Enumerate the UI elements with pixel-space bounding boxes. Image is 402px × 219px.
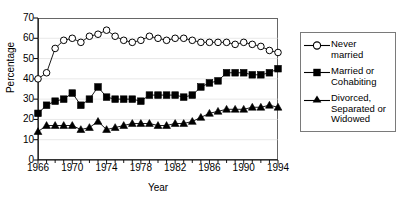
data-point	[155, 92, 162, 99]
data-point	[180, 35, 187, 42]
data-point	[223, 39, 230, 46]
data-point	[34, 128, 42, 135]
data-point	[189, 92, 196, 99]
data-point	[95, 84, 102, 91]
legend-item-married-or-cohabiting: Married or Cohabiting	[304, 66, 391, 87]
chart-area: Percentage 010203040506070 1966197019741…	[0, 0, 290, 219]
filled-square-marker-icon	[304, 67, 330, 78]
legend-label-line: Never married	[331, 38, 363, 60]
data-point	[172, 35, 179, 42]
data-point	[188, 118, 196, 125]
data-point	[120, 96, 127, 103]
data-point	[103, 27, 110, 34]
data-point	[60, 37, 67, 44]
data-point	[198, 84, 205, 91]
data-point	[52, 45, 59, 52]
data-point	[215, 78, 222, 85]
data-point	[120, 37, 127, 44]
y-tick-label: 20	[23, 114, 34, 124]
x-tick-label: 1990	[233, 162, 255, 173]
y-axis-tick-labels: 010203040506070	[0, 18, 34, 160]
data-point	[275, 65, 282, 72]
data-point	[138, 98, 145, 105]
data-point	[52, 98, 59, 105]
legend-label: Divorced, Separated or Widowed	[330, 93, 386, 125]
y-tick-label: 50	[23, 54, 34, 64]
data-point	[35, 110, 42, 117]
legend-label-line: Cohabiting	[331, 76, 376, 87]
data-point	[258, 43, 265, 50]
data-point	[215, 39, 222, 46]
data-point	[155, 35, 162, 42]
x-tick-label: 1978	[130, 162, 152, 173]
data-point	[112, 96, 119, 103]
data-point	[206, 39, 213, 46]
data-point	[240, 69, 247, 76]
data-point	[86, 33, 93, 40]
x-tick-label: 1994	[267, 162, 289, 173]
data-point	[266, 101, 274, 108]
data-point	[129, 39, 136, 46]
data-point	[146, 33, 153, 40]
y-tick-label: 30	[23, 94, 34, 104]
data-point	[189, 37, 196, 44]
data-point	[163, 92, 170, 99]
data-point	[163, 37, 170, 44]
data-point	[86, 124, 94, 131]
y-tick-label: 10	[23, 135, 34, 145]
data-point	[197, 114, 205, 121]
data-point	[240, 39, 247, 46]
data-point	[94, 118, 102, 125]
data-point	[68, 122, 76, 129]
data-point	[248, 103, 256, 110]
data-point	[112, 33, 119, 40]
data-point	[60, 122, 68, 129]
data-point	[249, 41, 256, 48]
data-point	[266, 47, 273, 54]
data-point	[60, 96, 67, 103]
y-tick-label: 70	[23, 13, 34, 23]
x-tick-label: 1974	[95, 162, 117, 173]
legend-label-line: Separated or	[331, 103, 386, 114]
x-tick-label: 1982	[164, 162, 186, 173]
data-point	[206, 80, 213, 87]
data-point	[223, 69, 230, 76]
data-point	[146, 120, 154, 127]
filled-triangle-marker-icon	[304, 94, 330, 105]
data-point	[171, 120, 179, 127]
data-point	[103, 94, 110, 101]
data-point	[78, 39, 85, 46]
chart-screenshot: Percentage 010203040506070 1966197019741…	[0, 0, 402, 219]
data-point	[43, 122, 51, 129]
x-tick-label: 1986	[198, 162, 220, 173]
x-tick-label: 1970	[61, 162, 83, 173]
data-point	[266, 69, 273, 76]
data-point	[232, 41, 239, 48]
data-point	[137, 120, 145, 127]
y-tick-label: 60	[23, 33, 34, 43]
data-point	[223, 105, 231, 112]
data-point	[249, 72, 256, 79]
plot-region	[38, 18, 278, 160]
data-point	[180, 94, 187, 101]
data-point	[258, 72, 265, 79]
open-circle-marker-icon	[304, 40, 330, 51]
legend: Never married Married or Cohabiting Divo…	[300, 32, 396, 132]
data-point	[69, 35, 76, 42]
data-point	[35, 76, 42, 83]
y-tick-label: 40	[23, 74, 34, 84]
data-point	[232, 69, 239, 76]
data-point	[69, 90, 76, 97]
data-point	[86, 96, 93, 103]
legend-label-line: Married or	[331, 65, 374, 76]
data-point	[198, 39, 205, 46]
data-point	[128, 120, 136, 127]
data-point	[78, 102, 85, 109]
legend-label: Married or Cohabiting	[330, 66, 376, 87]
x-tick-label: 1966	[27, 162, 49, 173]
legend-label: Never married	[330, 39, 391, 60]
data-point	[43, 102, 50, 109]
data-point	[138, 37, 145, 44]
data-point	[43, 69, 50, 76]
data-point	[275, 49, 282, 56]
